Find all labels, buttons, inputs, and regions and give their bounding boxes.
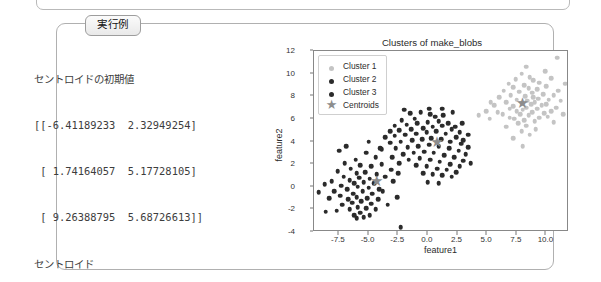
x-tick-mark <box>456 231 457 235</box>
data-point <box>385 203 390 208</box>
data-point <box>524 123 529 128</box>
y-tick-label: 2 <box>291 159 295 168</box>
data-point <box>436 181 441 186</box>
data-point <box>343 161 348 166</box>
data-point <box>554 105 559 110</box>
data-point <box>545 114 550 119</box>
data-point <box>345 187 350 192</box>
data-point <box>370 191 375 196</box>
data-point <box>411 151 416 156</box>
data-point <box>401 152 406 157</box>
data-point <box>364 206 369 211</box>
data-point <box>340 203 345 208</box>
data-point <box>388 129 393 134</box>
data-point <box>398 225 403 230</box>
data-point <box>392 134 397 139</box>
data-point <box>408 111 413 116</box>
data-point <box>383 135 388 140</box>
data-point <box>445 167 450 172</box>
x-tick-mark <box>486 231 487 235</box>
legend-label: Cluster 1 <box>343 61 377 71</box>
data-point <box>528 132 533 137</box>
data-point <box>526 113 531 118</box>
data-point <box>440 123 445 128</box>
data-point <box>360 189 365 194</box>
data-point <box>426 180 431 185</box>
data-point <box>458 130 463 135</box>
data-point <box>507 106 512 111</box>
data-point <box>353 157 358 162</box>
data-point <box>354 216 359 221</box>
data-point <box>477 113 482 118</box>
data-point <box>410 138 415 143</box>
data-point <box>424 130 429 135</box>
data-point <box>390 155 395 160</box>
data-point <box>356 184 361 189</box>
legend-item-centroids: ★ Centroids <box>323 98 379 111</box>
data-point <box>430 172 435 177</box>
data-point <box>563 82 568 87</box>
data-point <box>407 157 412 162</box>
x-tick-mark <box>515 231 516 235</box>
data-point <box>511 85 516 90</box>
data-point <box>369 164 374 169</box>
data-point <box>460 121 465 126</box>
data-point <box>424 164 429 169</box>
data-point <box>403 132 408 137</box>
data-point <box>454 170 459 175</box>
x-tick-label: -5.0 <box>361 235 375 244</box>
data-point <box>415 121 420 126</box>
x-tick-mark <box>545 231 546 235</box>
data-point <box>339 183 344 188</box>
console-line: [ 1.74164057 5.17728105] <box>34 164 284 179</box>
data-point <box>532 119 537 124</box>
data-point <box>519 129 524 134</box>
data-point <box>358 163 363 168</box>
data-point <box>354 195 359 200</box>
data-point <box>399 118 404 123</box>
data-point <box>405 145 410 150</box>
data-point <box>392 123 397 128</box>
y-tick-label: 0 <box>291 181 295 190</box>
data-point <box>456 148 461 153</box>
legend-label: Cluster 2 <box>343 74 377 84</box>
data-point <box>397 128 402 133</box>
y-axis-label: feature2 <box>274 128 284 161</box>
data-point <box>350 200 355 205</box>
data-point <box>519 71 524 76</box>
data-point <box>448 139 453 144</box>
data-point <box>446 121 451 126</box>
data-point <box>509 93 514 98</box>
data-point <box>356 205 361 210</box>
data-point <box>504 100 509 105</box>
data-point <box>466 145 471 150</box>
data-point <box>488 100 493 105</box>
x-tick-label: 7.5 <box>510 235 521 244</box>
data-point <box>484 109 489 114</box>
data-point <box>450 110 455 115</box>
legend-label: Cluster 3 <box>343 87 377 97</box>
data-point <box>366 139 371 144</box>
data-point <box>398 139 403 144</box>
x-tick-mark <box>397 231 398 235</box>
x-tick-mark <box>426 231 427 235</box>
data-point <box>449 127 454 132</box>
data-point <box>316 190 321 195</box>
data-point <box>329 179 334 184</box>
y-tick-label: 6 <box>291 113 295 122</box>
data-point <box>543 69 548 74</box>
data-point <box>427 106 432 111</box>
centroid-marker: ★ <box>516 94 529 109</box>
data-point <box>426 120 431 125</box>
data-point <box>522 118 527 123</box>
data-point <box>497 95 502 100</box>
data-point <box>513 77 518 82</box>
data-point <box>511 136 516 141</box>
data-point <box>452 155 457 160</box>
data-point <box>376 197 381 202</box>
data-point <box>539 103 544 108</box>
data-point <box>380 189 385 194</box>
data-point <box>348 166 353 171</box>
x-tick-label: -2.5 <box>390 235 404 244</box>
chart-title: Clusters of make_blobs <box>284 37 580 48</box>
